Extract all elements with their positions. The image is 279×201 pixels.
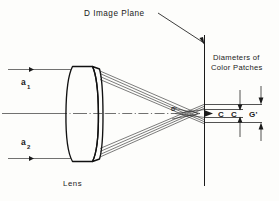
ray-label-a2-subscript: 2 — [27, 144, 31, 150]
color-patch-caption-line1: Diameters of — [213, 53, 260, 62]
color-patch-caption-line2: Color Patches — [211, 63, 263, 72]
patch-label-inner-left: C — [218, 110, 224, 119]
ray-label-a1-subscript: 1 — [27, 84, 31, 90]
input-ray-lower — [8, 156, 71, 161]
convergence-arrow — [204, 110, 213, 117]
title-leader-line — [158, 13, 204, 43]
patch-label-outer: G' — [249, 110, 258, 119]
ray-bundle-lower — [100, 104, 205, 157]
image-plane-title: D Image Plane — [84, 9, 145, 18]
ray-label-a2: a — [21, 137, 26, 147]
lens-label: Lens — [63, 179, 82, 188]
lens-element — [66, 67, 103, 162]
patch-label-inner-right: C — [231, 110, 237, 119]
ray-label-a1: a — [21, 77, 26, 87]
input-ray-upper — [8, 67, 71, 72]
focus-point-label: G' — [171, 106, 177, 112]
optical-diagram: Lens a 1 a 2 — [0, 0, 279, 201]
ray-bundle-upper — [100, 71, 205, 124]
dimension-outer-gprime — [259, 86, 264, 141]
dimension-inner-c — [238, 90, 243, 137]
